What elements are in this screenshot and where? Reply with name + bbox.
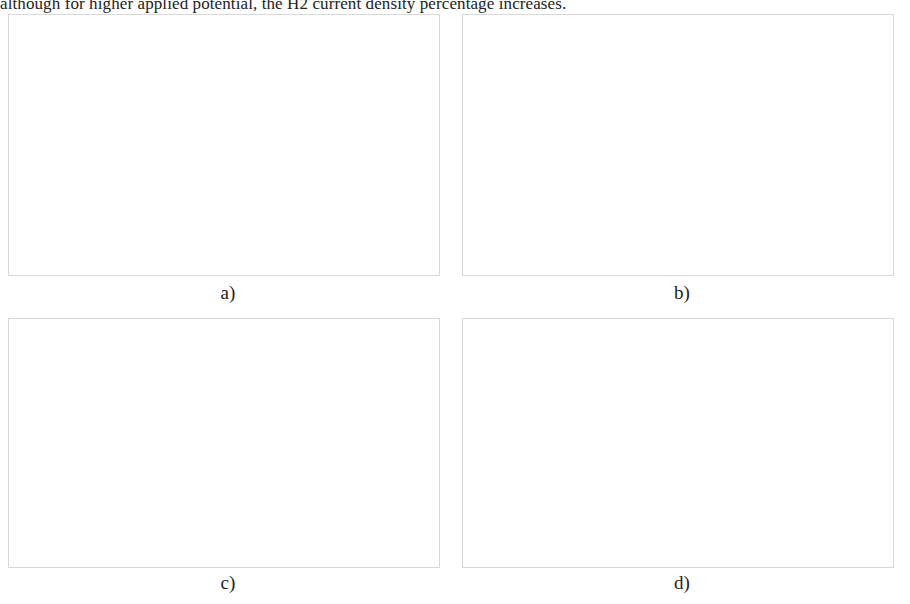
figure-page: although for higher applied potential, t… <box>0 0 910 604</box>
panel-a: -1.7-1.5-1.3-1.1-0.9Applied cathode pote… <box>8 14 448 314</box>
panel-b: -1.7-1.5-1.3-1.1-0.9Applied cathode pote… <box>462 14 902 314</box>
panel-c: 05101520Feed flowrate (cm³/min)010203040… <box>8 318 448 604</box>
panel-b-letter: b) <box>462 282 902 304</box>
panel-c-letter: c) <box>8 572 448 594</box>
cropped-body-text: although for higher applied potential, t… <box>0 0 910 14</box>
panel-b-frame <box>462 14 894 276</box>
panel-d-frame <box>462 318 894 568</box>
panel-a-frame <box>8 14 440 276</box>
panel-d: 05101520Feed flowrate (cm³/min)848688909… <box>462 318 902 604</box>
panel-d-letter: d) <box>462 572 902 594</box>
panel-a-letter: a) <box>8 282 448 304</box>
panel-c-frame <box>8 318 440 568</box>
